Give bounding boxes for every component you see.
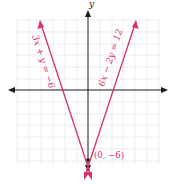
- intersection-label: (0, −6): [94, 150, 124, 160]
- line2-top-arrow-icon: [132, 20, 139, 29]
- y-axis-label: y: [88, 0, 95, 9]
- line2-label: 6x − 2y = 12: [96, 28, 124, 88]
- line-3x-plus-y: [41, 24, 91, 176]
- intersection-point: [86, 158, 90, 162]
- x-axis-right-arrow-icon: [161, 87, 168, 93]
- line1-top-arrow-icon: [38, 20, 45, 29]
- y-axis-up-arrow-icon: [85, 10, 91, 17]
- x-axis-left-arrow-icon: [8, 87, 15, 93]
- coordinate-plane: y 3x + y = −6 6x − 2y = 12 (0, −6): [0, 0, 178, 184]
